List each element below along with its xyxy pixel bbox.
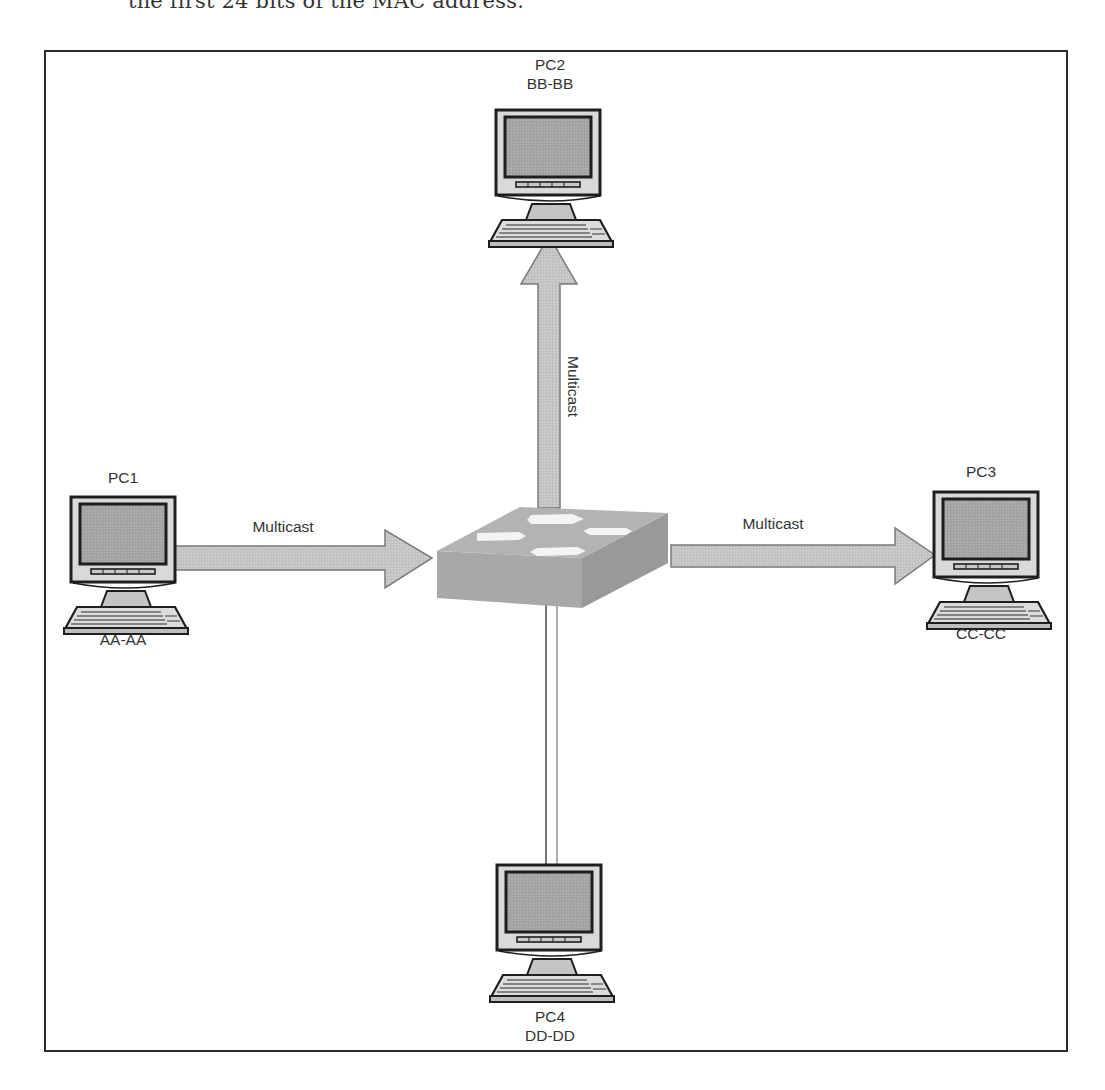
switch-icon xyxy=(437,507,668,608)
pc4-name-label: PC4 xyxy=(515,1008,585,1026)
arrow-switch-to-pc3 xyxy=(671,528,935,584)
link-label-pc1-switch: Multicast xyxy=(228,518,338,536)
pc3-name-label: PC3 xyxy=(956,463,1006,481)
computer-icon-pc3 xyxy=(927,492,1051,629)
link-switch-pc4 xyxy=(546,600,557,868)
arrow-pc1-to-switch xyxy=(175,530,432,588)
link-label-switch-pc3: Multicast xyxy=(718,515,828,533)
link-label-switch-pc2: Multicast xyxy=(564,356,582,417)
computer-icon-pc1 xyxy=(64,497,188,634)
pc1-mac-label: AA-AA xyxy=(88,631,158,649)
pc2-name-label: PC2 xyxy=(515,56,585,74)
network-diagram xyxy=(0,0,1105,1090)
pc3-mac-label: CC-CC xyxy=(946,625,1016,643)
pc4-mac-label: DD-DD xyxy=(515,1027,585,1045)
computer-icon-pc4 xyxy=(490,865,614,1002)
pc2-mac-label: BB-BB xyxy=(515,75,585,93)
computer-icon-pc2 xyxy=(489,110,613,247)
pc1-name-label: PC1 xyxy=(98,469,148,487)
